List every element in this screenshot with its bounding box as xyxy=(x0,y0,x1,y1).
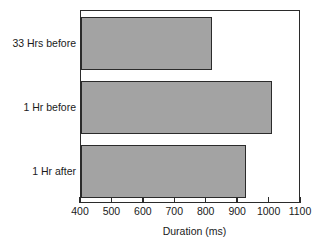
x-tick-mark-2 xyxy=(142,197,144,203)
x-tick-label-4: 800 xyxy=(197,205,215,218)
x-tick-label-7: 1100 xyxy=(289,205,312,218)
bar-0 xyxy=(81,17,212,70)
x-tick-label-3: 700 xyxy=(166,205,184,218)
x-axis-title: Duration (ms) xyxy=(0,225,325,238)
x-tick-label-5: 900 xyxy=(228,205,246,218)
x-tick-mark-4 xyxy=(205,197,207,203)
category-label-0: 33 Hrs before xyxy=(0,37,76,49)
bar-2 xyxy=(81,145,246,198)
x-axis-title-text: Duration (ms) xyxy=(99,225,227,238)
x-tick-label-6: 1000 xyxy=(257,205,280,218)
bar-chart: 33 Hrs before 1 Hr before 1 Hr after 400… xyxy=(0,0,325,246)
x-tick-mark-7 xyxy=(299,197,301,203)
x-tick-mark-5 xyxy=(236,197,238,203)
category-label-1: 1 Hr before xyxy=(0,101,76,113)
bar-1 xyxy=(81,81,272,134)
x-tick-mark-6 xyxy=(268,197,270,203)
x-tick-label-2: 600 xyxy=(134,205,152,218)
x-tick-mark-3 xyxy=(174,197,176,203)
category-label-2: 1 Hr after xyxy=(0,165,76,177)
x-tick-label-0: 400 xyxy=(71,205,89,218)
x-tick-label-1: 500 xyxy=(103,205,121,218)
x-tick-mark-0 xyxy=(79,197,81,203)
x-tick-mark-1 xyxy=(111,197,113,203)
plot-area xyxy=(80,10,300,203)
